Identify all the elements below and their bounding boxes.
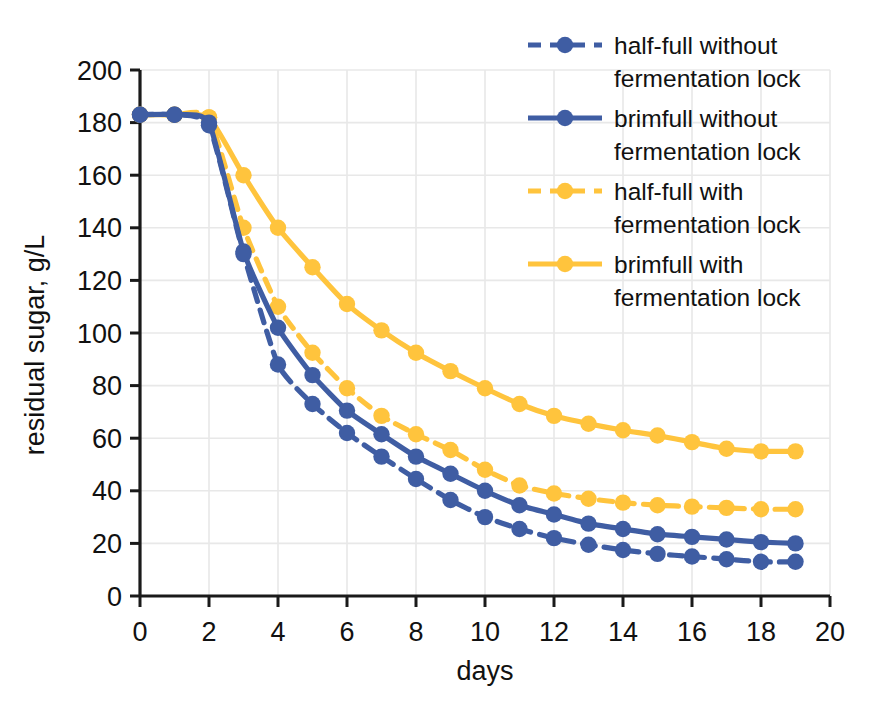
data-point — [787, 535, 803, 551]
data-point — [753, 443, 769, 459]
y-tick-label: 180 — [77, 108, 122, 138]
legend-label-line1: half-full without — [614, 32, 778, 59]
x-tick-label: 6 — [339, 617, 354, 647]
legend-swatch-marker — [557, 110, 573, 126]
data-point — [339, 402, 355, 418]
data-point — [477, 509, 493, 525]
chart-canvas: 020406080100120140160180200 024681012141… — [0, 0, 890, 714]
x-tick-label: 14 — [608, 617, 638, 647]
legend-label-line2: fermentation lock — [614, 284, 801, 311]
data-point — [580, 515, 596, 531]
data-point — [511, 497, 527, 513]
data-point — [580, 490, 596, 506]
y-tick-label: 140 — [77, 213, 122, 243]
data-point — [787, 501, 803, 517]
data-point — [753, 501, 769, 517]
data-point — [546, 530, 562, 546]
data-point — [684, 548, 700, 564]
data-point — [787, 443, 803, 459]
data-point — [546, 485, 562, 501]
x-tick-label: 2 — [201, 617, 216, 647]
legend-label-line1: brimfull without — [614, 105, 778, 132]
x-tick-label: 18 — [746, 617, 776, 647]
data-point — [132, 107, 148, 123]
data-point — [166, 107, 182, 123]
y-tick-label: 40 — [92, 476, 122, 506]
data-point — [580, 537, 596, 553]
legend-label-line2: fermentation lock — [614, 138, 801, 165]
data-point — [649, 497, 665, 513]
data-point — [718, 551, 734, 567]
data-point — [373, 408, 389, 424]
x-axis-title: days — [456, 656, 513, 686]
data-point — [787, 554, 803, 570]
data-point — [649, 526, 665, 542]
legend-label-line1: half-full with — [614, 178, 743, 205]
data-point — [753, 534, 769, 550]
data-point — [270, 220, 286, 236]
data-point — [201, 117, 217, 133]
data-point — [511, 477, 527, 493]
data-point — [373, 426, 389, 442]
data-point — [408, 448, 424, 464]
data-point — [408, 345, 424, 361]
data-point — [580, 416, 596, 432]
data-point — [235, 167, 251, 183]
data-point — [408, 471, 424, 487]
data-point — [546, 506, 562, 522]
legend-swatch-marker — [557, 256, 573, 272]
x-tick-label: 4 — [270, 617, 285, 647]
y-tick-label: 200 — [77, 56, 122, 86]
data-point — [270, 320, 286, 336]
y-tick-label: 0 — [107, 582, 122, 612]
data-point — [408, 426, 424, 442]
data-point — [684, 498, 700, 514]
legend-label-line1: brimfull with — [614, 251, 743, 278]
legend-label-line2: fermentation lock — [614, 65, 801, 92]
legend-swatch-marker — [557, 37, 573, 53]
data-point — [442, 363, 458, 379]
data-point — [304, 259, 320, 275]
data-point — [442, 492, 458, 508]
data-point — [477, 483, 493, 499]
data-point — [339, 296, 355, 312]
data-point — [718, 500, 734, 516]
data-point — [442, 442, 458, 458]
data-point — [304, 367, 320, 383]
data-point — [718, 531, 734, 547]
data-point — [649, 427, 665, 443]
data-point — [546, 408, 562, 424]
x-tick-label: 12 — [539, 617, 569, 647]
y-tick-label: 60 — [92, 424, 122, 454]
residual-sugar-line-chart: 020406080100120140160180200 024681012141… — [0, 0, 890, 714]
legend-swatch-marker — [557, 183, 573, 199]
data-point — [649, 546, 665, 562]
data-point — [718, 441, 734, 457]
y-tick-label: 80 — [92, 371, 122, 401]
x-tick-label: 20 — [815, 617, 845, 647]
data-point — [615, 494, 631, 510]
x-tick-label: 16 — [677, 617, 707, 647]
data-point — [511, 396, 527, 412]
data-point — [684, 434, 700, 450]
y-tick-label: 120 — [77, 266, 122, 296]
data-point — [304, 396, 320, 412]
x-tick-label: 10 — [470, 617, 500, 647]
y-tick-label: 20 — [92, 529, 122, 559]
legend-label-line2: fermentation lock — [614, 211, 801, 238]
data-point — [235, 246, 251, 262]
y-tick-label: 160 — [77, 161, 122, 191]
data-point — [477, 462, 493, 478]
data-point — [373, 448, 389, 464]
data-point — [339, 380, 355, 396]
data-point — [477, 380, 493, 396]
y-tick-label: 100 — [77, 319, 122, 349]
data-point — [270, 356, 286, 372]
data-point — [339, 425, 355, 441]
x-tick-label: 0 — [132, 617, 147, 647]
data-point — [753, 554, 769, 570]
data-point — [615, 542, 631, 558]
data-point — [615, 521, 631, 537]
data-point — [511, 521, 527, 537]
data-point — [615, 422, 631, 438]
